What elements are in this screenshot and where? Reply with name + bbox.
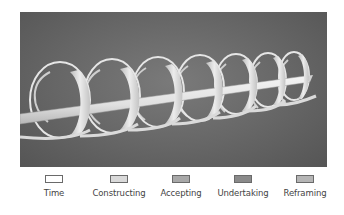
helix-illustration-panel	[20, 12, 327, 167]
legend: Time Constructing Accepting Undertaking …	[0, 173, 344, 213]
legend-swatch-reframing	[296, 175, 314, 183]
legend-swatch-undertaking	[234, 175, 252, 183]
helix-illustration	[20, 12, 327, 167]
legend-item-reframing: Reframing	[265, 173, 344, 198]
legend-swatch-accepting	[172, 175, 190, 183]
legend-swatch-constructing	[110, 175, 128, 183]
legend-label: Reframing	[265, 188, 344, 198]
time-arrow	[20, 75, 313, 124]
legend-swatch-time	[45, 175, 63, 183]
